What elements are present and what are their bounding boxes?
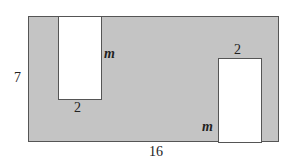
left-cutout-height-label: m xyxy=(104,47,115,61)
left-cutout-rectangle xyxy=(58,16,102,100)
outer-rectangle xyxy=(28,16,279,142)
left-cutout-width-label: 2 xyxy=(74,101,81,115)
right-cutout-height-label: m xyxy=(202,120,213,134)
outer-height-label: 7 xyxy=(14,71,21,85)
right-cutout-width-label: 2 xyxy=(234,43,241,57)
outer-width-label: 16 xyxy=(149,145,163,159)
right-cutout-rectangle xyxy=(218,58,262,143)
